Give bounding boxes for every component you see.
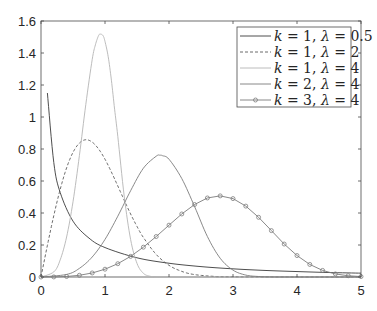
x-tick-label: 3	[229, 283, 236, 298]
y-tick-label: 0.8	[18, 142, 36, 157]
y-tick-label: 1	[29, 110, 36, 125]
y-tick-label: 0.4	[18, 206, 36, 221]
x-tick-label: 1	[101, 283, 108, 298]
y-tick-label: 0.2	[18, 238, 36, 253]
x-tick-label: 5	[357, 283, 364, 298]
legend-label: k = 1, λ = 2	[274, 44, 359, 60]
legend-label: k = 2, λ = 4	[274, 76, 359, 92]
legend: k = 1, λ = 0.5k = 1, λ = 2k = 1, λ = 4k …	[237, 27, 373, 108]
x-axis-tick-labels: 012345	[37, 283, 364, 298]
x-tick-label: 0	[37, 283, 44, 298]
y-tick-label: 1.2	[18, 78, 36, 93]
y-tick-label: 0	[29, 270, 36, 285]
y-tick-label: 1.6	[18, 14, 36, 29]
x-tick-label: 2	[165, 283, 172, 298]
x-tick-label: 4	[293, 283, 300, 298]
y-axis-tick-labels: 00.20.40.60.811.21.41.6	[18, 14, 36, 285]
weibull-pdf-chart: 012345 00.20.40.60.811.21.41.6 k = 1, λ …	[0, 0, 377, 311]
legend-label: k = 1, λ = 0.5	[274, 28, 373, 44]
y-tick-label: 0.6	[18, 174, 36, 189]
y-tick-label: 1.4	[18, 46, 36, 61]
legend-label: k = 3, λ = 4	[274, 92, 359, 108]
legend-label: k = 1, λ = 4	[274, 60, 359, 76]
